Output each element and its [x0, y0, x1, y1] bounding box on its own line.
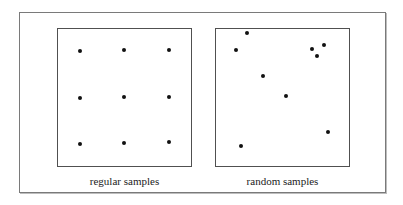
- regular-samples-caption: regular samples: [57, 175, 192, 187]
- random-sample-point: [284, 94, 288, 98]
- regular-sample-point: [167, 48, 171, 52]
- regular-sample-point: [78, 142, 82, 146]
- regular-sample-point: [122, 141, 126, 145]
- regular-sample-point: [78, 49, 82, 53]
- random-sample-point: [326, 130, 330, 134]
- random-sample-point: [315, 54, 319, 58]
- regular-sample-point: [167, 140, 171, 144]
- regular-sample-point: [122, 95, 126, 99]
- random-sample-point: [239, 144, 243, 148]
- random-sample-point: [261, 74, 265, 78]
- regular-sample-point: [167, 95, 171, 99]
- random-samples-caption: random samples: [215, 175, 350, 187]
- random-sample-point: [310, 47, 314, 51]
- random-sample-point: [322, 43, 326, 47]
- regular-sample-point: [122, 48, 126, 52]
- random-sample-point: [245, 31, 249, 35]
- regular-sample-point: [78, 96, 82, 100]
- random-sample-point: [234, 48, 238, 52]
